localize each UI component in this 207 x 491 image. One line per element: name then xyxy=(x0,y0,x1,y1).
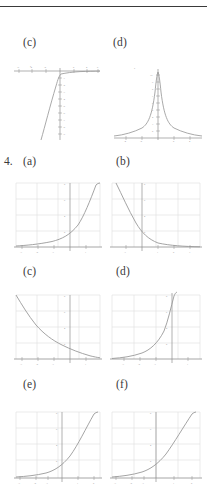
svg-text:-5: -5 xyxy=(63,105,66,108)
svg-text:8: 8 xyxy=(144,183,146,186)
svg-text:-1: -1 xyxy=(52,363,55,366)
svg-text:-1: -1 xyxy=(46,482,49,485)
gridlines xyxy=(16,412,100,478)
svg-text:6: 6 xyxy=(150,428,152,431)
svg-text:2: 2 xyxy=(64,343,66,346)
figure-q4-c: -3-2 -11 86 42 xyxy=(12,287,104,367)
panel-label-top-d: (d) xyxy=(113,36,127,48)
svg-text:-4: -4 xyxy=(124,140,127,142)
y-tick-labels: 86 42 xyxy=(144,183,146,234)
x-tick-labels: -3-2-1 12 xyxy=(114,482,193,485)
chart-top-d: y -4-2 24 1098 765 xyxy=(112,62,204,142)
y-tick-labels: 86 42 xyxy=(64,295,66,346)
svg-text:8: 8 xyxy=(64,183,66,186)
svg-text:-2: -2 xyxy=(140,140,143,142)
curve-top-c xyxy=(41,71,100,140)
svg-text:3: 3 xyxy=(152,123,154,126)
panel-label-top-c: (c) xyxy=(23,36,36,48)
svg-text:-1: -1 xyxy=(142,482,145,485)
svg-text:-6: -6 xyxy=(17,66,20,69)
figure-q4-b: -11 23 86 42 xyxy=(108,175,204,255)
svg-text:6: 6 xyxy=(166,311,168,314)
svg-text:6: 6 xyxy=(144,199,146,202)
panel-label-f: (f) xyxy=(116,378,128,390)
svg-text:2: 2 xyxy=(173,140,175,142)
figure-q4-f: -3-2-1 12 86 42 xyxy=(108,404,204,488)
svg-text:4: 4 xyxy=(152,116,154,119)
svg-text:-2: -2 xyxy=(44,66,47,69)
chart-q4-a: -3-2 -11 86 42 xyxy=(12,175,104,255)
chart-top-d-ylabel: y xyxy=(134,67,136,70)
svg-text:-3: -3 xyxy=(20,363,23,366)
svg-text:8: 8 xyxy=(152,88,154,91)
top-horizontal-rule xyxy=(0,6,207,7)
svg-text:-3: -3 xyxy=(18,482,21,485)
x-tick-labels: -3-2-1 12 xyxy=(18,482,95,485)
svg-text:6: 6 xyxy=(64,199,66,202)
gridlines xyxy=(16,183,100,247)
svg-text:6: 6 xyxy=(64,311,66,314)
x-tick-labels: -4-2 24 xyxy=(124,140,191,142)
svg-text:1: 1 xyxy=(85,251,87,254)
svg-text:4: 4 xyxy=(144,215,146,218)
y-tick-labels: 86 42 xyxy=(64,183,66,234)
svg-text:-4: -4 xyxy=(63,98,66,101)
svg-text:-2: -2 xyxy=(63,84,66,87)
svg-text:-3: -3 xyxy=(114,482,117,485)
figure-top-c: y -6-4-2 246 xyxy=(14,62,102,140)
svg-text:2: 2 xyxy=(64,231,66,234)
figure-top-d: y -4-2 24 1098 765 xyxy=(112,62,204,142)
svg-text:-2: -2 xyxy=(130,482,133,485)
figure-q4-a: -3-2 -11 86 42 xyxy=(12,175,104,255)
svg-text:-2: -2 xyxy=(36,363,39,366)
x-tick-labels: -6-4-2 246 xyxy=(17,66,99,69)
svg-text:-9: -9 xyxy=(63,133,66,136)
svg-text:4: 4 xyxy=(64,327,66,330)
svg-text:1: 1 xyxy=(157,251,159,254)
chart-top-c: y -6-4-2 246 xyxy=(14,62,102,140)
svg-text:-8: -8 xyxy=(63,126,66,129)
svg-text:9: 9 xyxy=(152,81,154,84)
svg-text:1: 1 xyxy=(187,363,189,366)
svg-text:3: 3 xyxy=(189,251,191,254)
gridlines xyxy=(112,183,200,247)
svg-text:2: 2 xyxy=(166,343,168,346)
svg-text:-7: -7 xyxy=(63,119,66,122)
svg-text:4: 4 xyxy=(64,215,66,218)
svg-text:10: 10 xyxy=(150,74,153,77)
panel-label-d: (d) xyxy=(116,265,130,277)
svg-text:2: 2 xyxy=(73,66,75,69)
gridlines xyxy=(112,295,200,359)
gridlines xyxy=(16,295,100,359)
svg-text:-4: -4 xyxy=(30,66,33,69)
x-tick-labels: -3-2 -11 xyxy=(122,363,189,366)
y-tick-labels: 86 42 xyxy=(150,412,152,463)
svg-text:-3: -3 xyxy=(63,91,66,94)
svg-text:7: 7 xyxy=(152,95,154,98)
svg-text:-1: -1 xyxy=(124,251,127,254)
panel-label-a: (a) xyxy=(23,155,36,167)
svg-text:-6: -6 xyxy=(63,112,66,115)
svg-text:4: 4 xyxy=(86,66,88,69)
figure-q4-e: -3-2-1 12 86 42 xyxy=(12,404,104,488)
svg-text:2: 2 xyxy=(93,482,95,485)
curve-q4-d xyxy=(112,292,177,359)
panel-label-c: (c) xyxy=(23,265,36,277)
question-number: 4. xyxy=(4,155,13,167)
svg-text:1: 1 xyxy=(173,482,175,485)
svg-text:2: 2 xyxy=(152,130,154,133)
x-tick-labels: -3-2 -11 xyxy=(20,251,87,254)
svg-text:2: 2 xyxy=(150,460,152,463)
chart-q4-d: -3-2 -11 86 42 xyxy=(108,287,204,367)
x-tick-labels: -11 23 xyxy=(124,251,191,254)
svg-text:-1: -1 xyxy=(63,77,66,80)
figure-q4-d: -3-2 -11 86 42 xyxy=(108,287,204,367)
svg-text:1: 1 xyxy=(77,482,79,485)
svg-text:4: 4 xyxy=(150,444,152,447)
svg-text:2: 2 xyxy=(173,251,175,254)
svg-text:8: 8 xyxy=(166,295,168,298)
svg-text:-2: -2 xyxy=(138,363,141,366)
y-tick-labels: -1-2-3 -4-5-6 -7-8-9 xyxy=(63,77,66,136)
svg-text:8: 8 xyxy=(150,412,152,415)
svg-text:4: 4 xyxy=(189,140,191,142)
